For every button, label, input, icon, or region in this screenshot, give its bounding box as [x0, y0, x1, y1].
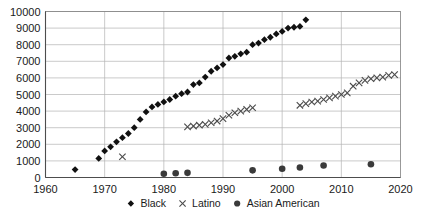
data-point — [249, 41, 256, 48]
series-latino — [119, 71, 398, 160]
x-axis-tick-label: 2000 — [270, 183, 294, 195]
data-point — [226, 55, 233, 62]
y-axis-tick-label: 10000 — [10, 6, 41, 18]
legend-item-asian-american: Asian American — [247, 197, 320, 209]
data-point — [220, 61, 227, 68]
y-axis-tick-label: 9000 — [16, 22, 40, 34]
data-point — [172, 93, 179, 100]
data-point — [255, 40, 262, 47]
x-axis-tick-label: 1960 — [33, 183, 57, 195]
legend-marker-diamond — [128, 200, 134, 206]
data-point — [303, 100, 309, 106]
data-point — [368, 76, 374, 82]
data-point — [243, 49, 250, 56]
data-point — [243, 106, 249, 112]
data-point — [119, 154, 125, 160]
data-point — [214, 118, 220, 124]
data-point — [196, 79, 203, 86]
x-axis-tick-label: 2010 — [329, 183, 353, 195]
y-axis-tick-label: 7000 — [16, 55, 40, 67]
y-axis-tick-label: 2000 — [16, 138, 40, 150]
data-point — [302, 16, 309, 23]
legend-item-black: Black — [140, 197, 166, 209]
data-point — [184, 124, 190, 130]
data-point — [350, 83, 356, 89]
data-point — [119, 134, 126, 141]
data-point — [208, 120, 214, 126]
data-point — [380, 74, 386, 80]
data-point — [72, 166, 79, 173]
data-point — [160, 99, 167, 106]
data-point — [344, 90, 350, 96]
data-point — [297, 164, 304, 171]
data-point — [291, 24, 298, 31]
data-point — [309, 99, 315, 105]
y-axis-tick-label: 5000 — [16, 89, 40, 101]
chart-canvas: 0100020003000400050006000700080009000100… — [0, 0, 422, 222]
data-point — [166, 96, 173, 103]
data-point — [368, 161, 375, 168]
data-point — [190, 81, 197, 88]
x-axis-tick-label: 1970 — [92, 183, 116, 195]
data-point — [261, 36, 268, 43]
data-point — [125, 130, 132, 137]
legend-marker-circle — [234, 200, 240, 206]
data-point — [391, 71, 397, 77]
data-point — [101, 148, 108, 155]
data-point — [273, 31, 280, 38]
data-point — [285, 25, 292, 32]
legend-item-latino: Latino — [192, 197, 221, 209]
data-point — [178, 90, 185, 97]
data-point — [208, 68, 215, 75]
data-point — [356, 80, 362, 86]
data-point — [326, 95, 332, 101]
data-point — [249, 105, 255, 111]
data-point — [249, 167, 256, 174]
data-point — [131, 124, 138, 131]
data-point — [232, 110, 238, 116]
data-point — [279, 165, 286, 172]
data-point — [332, 93, 338, 99]
data-point — [320, 162, 327, 169]
data-point — [137, 116, 144, 123]
data-point — [297, 102, 303, 108]
data-point — [172, 170, 179, 177]
chart-legend: BlackLatinoAsian American — [128, 197, 320, 209]
y-axis-tick-label: 6000 — [16, 72, 40, 84]
data-point — [314, 98, 320, 104]
x-axis-tick-label: 2020 — [388, 183, 412, 195]
data-point — [279, 28, 286, 35]
data-point — [297, 23, 304, 30]
y-axis-tick-label: 4000 — [16, 105, 40, 117]
data-point — [231, 53, 238, 60]
data-point — [143, 109, 150, 116]
data-point — [202, 121, 208, 127]
data-point — [184, 170, 191, 177]
scatter-chart: 0100020003000400050006000700080009000100… — [0, 0, 422, 222]
data-point — [237, 50, 244, 57]
y-axis-tick-label: 3000 — [16, 122, 40, 134]
data-point — [267, 34, 274, 41]
series-asian-american — [161, 161, 375, 177]
data-point — [149, 104, 156, 111]
data-point — [320, 96, 326, 102]
y-axis-tick-label: 8000 — [16, 39, 40, 51]
data-point — [155, 101, 162, 108]
legend-marker-x — [179, 200, 185, 206]
x-axis-tick-label: 1980 — [152, 183, 176, 195]
data-point — [190, 123, 196, 129]
data-point — [226, 112, 232, 118]
data-point — [214, 65, 221, 72]
data-point — [161, 170, 168, 177]
x-axis-tick-label: 1990 — [211, 183, 235, 195]
y-axis-tick-label: 1000 — [16, 155, 40, 167]
data-point — [202, 74, 209, 81]
